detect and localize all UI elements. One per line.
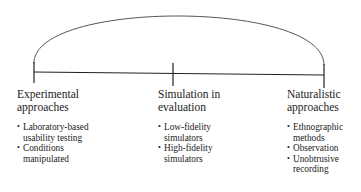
bullet-item: Unobtrusive recording xyxy=(287,154,353,175)
heading-line: Experimental xyxy=(17,88,79,100)
continuum-axis xyxy=(34,72,324,75)
simulation-in-evaluation: Simulation in evaluation Low-fidelity si… xyxy=(158,88,258,164)
heading-line: approaches xyxy=(287,101,339,113)
heading-line: Naturalistic xyxy=(287,88,341,100)
heading-naturalistic: Naturalistic approaches xyxy=(287,88,361,114)
heading-line: approaches xyxy=(17,101,69,113)
heading-simulation: Simulation in evaluation xyxy=(158,88,258,114)
simulation-bullets: Low-fidelity simulators High-fidelity si… xyxy=(158,122,258,164)
heading-line: Simulation in xyxy=(158,88,220,100)
bullet-item: Observation xyxy=(287,143,361,154)
bullet-item: Conditions manipulated xyxy=(17,143,83,164)
bullet-item: High-fidelity simulators xyxy=(158,143,219,164)
naturalistic-approaches: Naturalistic approaches Ethnographic met… xyxy=(287,88,361,175)
experimental-bullets: Laboratory-based usability testing Condi… xyxy=(17,122,127,164)
naturalistic-bullets: Ethnographic methods Observation Unobtru… xyxy=(287,122,361,175)
heading-line: evaluation xyxy=(158,101,206,113)
spanning-arc xyxy=(34,16,324,65)
experimental-approaches: Experimental approaches Laboratory-based… xyxy=(17,88,127,164)
bullet-item: Ethnographic methods xyxy=(287,122,359,143)
bullet-item: Low-fidelity simulators xyxy=(158,122,219,143)
heading-experimental: Experimental approaches xyxy=(17,88,127,114)
bullet-item: Laboratory-based usability testing xyxy=(17,122,103,143)
